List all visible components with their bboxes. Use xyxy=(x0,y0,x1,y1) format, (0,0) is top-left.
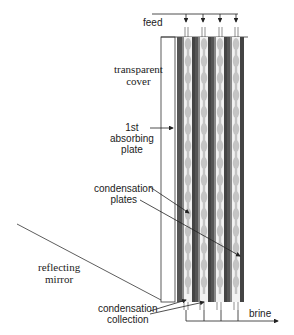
transparent-cover-label: transparent cover xyxy=(114,63,163,87)
plate-stack xyxy=(177,37,244,302)
brine-label: brine xyxy=(249,308,271,319)
condensation-collection-label-line1: condensation xyxy=(98,303,158,314)
condensation-collection-label-line2: collection xyxy=(98,314,158,325)
solar-still-diagram: feed transparent cover 1st absorbing pla… xyxy=(0,0,294,335)
transparent-cover-label-line1: transparent xyxy=(114,63,163,75)
absorbing-plate-label-line3: plate xyxy=(110,144,154,155)
reflecting-mirror-label: reflecting mirror xyxy=(38,261,80,285)
absorbing-plate-label: 1st absorbing plate xyxy=(110,122,154,155)
feed-manifold xyxy=(152,14,238,37)
condensation-plates-label: condensation plates xyxy=(94,183,154,205)
condensation-plates-label-line2: plates xyxy=(94,194,154,205)
absorbing-plate-label-line1: 1st xyxy=(110,122,154,133)
condensation-plates-label-line1: condensation xyxy=(94,183,154,194)
feed-label: feed xyxy=(143,17,162,28)
reflecting-mirror-label-line2: mirror xyxy=(38,273,80,285)
condensation-collection-leader-2 xyxy=(150,302,204,314)
transparent-cover xyxy=(161,37,175,302)
transparent-cover-label-line2: cover xyxy=(114,75,163,87)
outlets xyxy=(184,302,238,310)
condensation-collection-label: condensation collection xyxy=(98,303,158,325)
absorbing-plate-label-line2: absorbing xyxy=(110,133,154,144)
reflecting-mirror-label-line1: reflecting xyxy=(38,261,80,273)
